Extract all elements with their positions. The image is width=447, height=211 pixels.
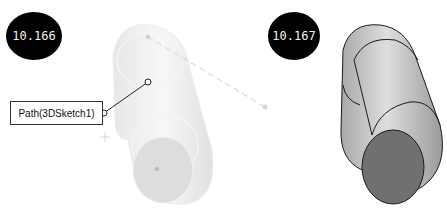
figure-number-badge-left: 10.166: [6, 12, 62, 60]
path-callout-label: Path(3DSketch1): [10, 101, 103, 125]
figure-number-badge-right: 10.167: [268, 12, 320, 60]
figure-canvas: 10.166 10.167 Path(3DSketch1): [0, 0, 447, 211]
solid-elbow: [341, 25, 443, 204]
preview-elbow: [100, 24, 268, 204]
